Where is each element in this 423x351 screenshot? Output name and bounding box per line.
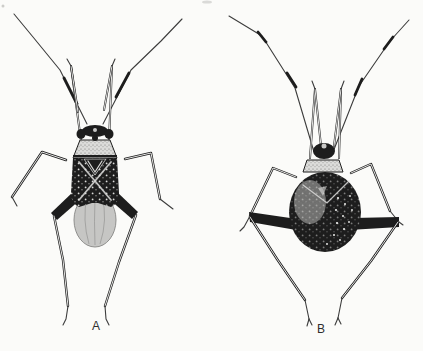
head — [313, 143, 335, 159]
head — [77, 125, 114, 141]
figure-plate: A B — [0, 0, 423, 351]
body — [289, 143, 361, 252]
abdomen — [289, 172, 361, 252]
insect-illustration-svg: A B — [0, 0, 423, 351]
antennae — [14, 14, 182, 124]
panel-a-label: A — [92, 319, 100, 333]
scan-speck — [2, 5, 5, 8]
scan-smudge — [202, 0, 212, 3]
nymph-bug-illustration — [229, 16, 409, 326]
adult-bug-illustration — [12, 14, 182, 325]
panel-b-label: B — [317, 322, 325, 336]
body — [71, 125, 119, 247]
pronotum — [303, 160, 343, 172]
pronotum — [73, 140, 117, 158]
